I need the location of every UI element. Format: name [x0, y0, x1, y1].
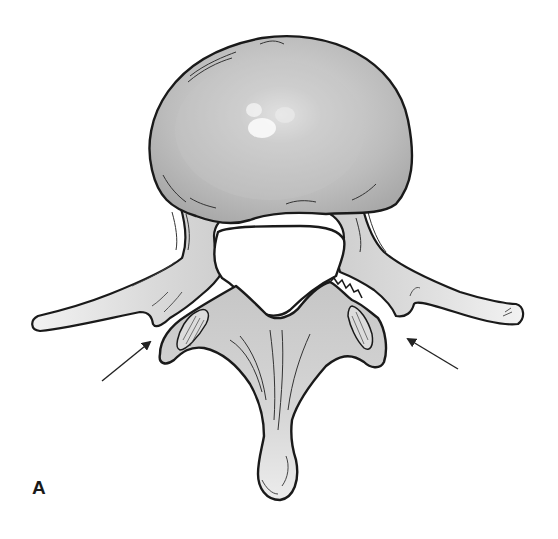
right-arrow-icon: [408, 339, 458, 369]
left-arrow-icon: [102, 342, 150, 381]
vertebra-illustration: [0, 0, 558, 539]
vertebral-body: [149, 36, 412, 223]
panel-label: A: [32, 478, 46, 497]
